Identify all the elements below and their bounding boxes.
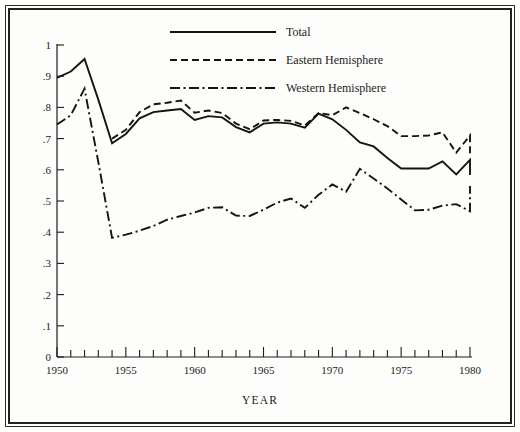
x-tick-label: 1950 [46, 364, 69, 376]
x-tick-label: 1955 [115, 364, 138, 376]
y-axis-tick-labels: 0.1.2.3.4.5.6.7.8.91 [43, 39, 52, 363]
y-tick-label: .2 [43, 289, 51, 301]
y-tick-label: .9 [43, 70, 52, 82]
x-tick-label: 1970 [321, 364, 344, 376]
x-tick-label: 1965 [253, 364, 276, 376]
y-tick-label: .7 [43, 133, 52, 145]
line-chart: 0.1.2.3.4.5.6.7.8.91 1950195519601965197… [0, 0, 520, 432]
y-tick-label: .1 [43, 320, 51, 332]
chart-legend: TotalEastern HemisphereWestern Hemispher… [170, 25, 386, 95]
legend-label-total: Total [286, 25, 311, 39]
y-tick-label: .5 [43, 195, 52, 207]
x-axis-tick-labels: 1950195519601965197019751980 [46, 364, 482, 376]
data-series [57, 59, 470, 238]
series-line-western-hemisphere [57, 89, 470, 238]
x-tick-label: 1960 [184, 364, 207, 376]
y-tick-label: 1 [46, 39, 52, 51]
series-line-total [57, 59, 470, 175]
y-tick-label: .8 [43, 101, 52, 113]
y-tick-label: .6 [43, 164, 52, 176]
x-tick-label: 1980 [459, 364, 482, 376]
y-tick-label: .3 [43, 257, 52, 269]
legend-label-eastern-hemisphere: Eastern Hemisphere [286, 53, 383, 67]
figure-container: 0.1.2.3.4.5.6.7.8.91 1950195519601965197… [0, 0, 520, 432]
tick-marks [57, 45, 470, 357]
axes [57, 44, 472, 357]
legend-label-western-hemisphere: Western Hemisphere [286, 81, 386, 95]
y-tick-label: .4 [43, 226, 52, 238]
series-line-eastern-hemisphere [112, 101, 470, 158]
y-tick-label: 0 [46, 351, 52, 363]
x-tick-label: 1975 [390, 364, 413, 376]
x-axis-title: YEAR [242, 394, 278, 406]
